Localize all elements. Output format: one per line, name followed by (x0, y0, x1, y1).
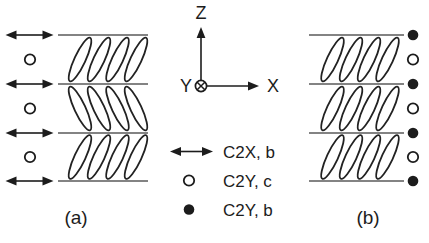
x-axis-label: X (267, 76, 279, 96)
c2y-filled-circle-icon (408, 176, 419, 187)
arrowhead-icon (43, 31, 54, 40)
arrowhead-icon (170, 147, 181, 156)
arrowhead-icon (43, 177, 54, 186)
diagram-shapes (6, 27, 419, 215)
figure-canvas: Z X Y C2X, b C2Y, c C2Y, b (a) (b) (0, 0, 429, 243)
legend-double-arrow-icon (170, 147, 213, 156)
c2y-open-circle-icon (25, 152, 35, 162)
arrowhead-icon (6, 177, 17, 186)
c2y-filled-circle-icon (408, 79, 419, 90)
arrowhead-icon (202, 147, 213, 156)
arrowhead-icon (43, 80, 54, 89)
c2y-open-circle-icon (25, 103, 35, 113)
c2y-open-circle-icon (408, 54, 418, 64)
c2y-open-circle-icon (184, 175, 194, 185)
coordinate-axes-labels: Z X Y (180, 3, 279, 96)
panel-b-caption: (b) (356, 207, 379, 228)
c2y-open-circle-icon (25, 54, 35, 64)
arrowhead-icon (6, 31, 17, 40)
y-axis-label: Y (180, 76, 192, 96)
c2x-axis-arrow-icon (6, 129, 54, 138)
legend-label-c2x-b: C2X, b (223, 143, 275, 162)
c2x-axis-arrow-icon (6, 80, 54, 89)
arrowhead-icon (6, 80, 17, 89)
panel-b (309, 30, 418, 187)
smectic-layer-symmetry-figure: Z X Y C2X, b C2Y, c C2Y, b (a) (b) (0, 0, 429, 243)
c2x-axis-arrow-icon (6, 177, 54, 186)
z-arrowhead-icon (197, 27, 206, 38)
c2x-axis-arrow-icon (6, 31, 54, 40)
legend-label-c2y-c: C2Y, c (223, 172, 272, 191)
legend-label-c2y-b: C2Y, b (223, 201, 273, 220)
c2y-filled-circle-icon (184, 204, 195, 215)
panel-a (6, 31, 152, 186)
c2y-open-circle-icon (408, 152, 418, 162)
legend: C2X, b C2Y, c C2Y, b (223, 143, 275, 220)
legend-symbols (170, 147, 213, 215)
z-axis-label: Z (196, 3, 207, 23)
arrowhead-icon (43, 129, 54, 138)
panel-a-caption: (a) (64, 207, 87, 228)
c2y-filled-circle-icon (408, 30, 419, 41)
arrowhead-icon (6, 129, 17, 138)
c2y-open-circle-icon (408, 103, 418, 113)
arrowhead-icon (248, 82, 259, 91)
y-axis-into-page-icon (195, 80, 206, 91)
coordinate-axes (195, 27, 259, 92)
c2y-filled-circle-icon (408, 128, 419, 139)
